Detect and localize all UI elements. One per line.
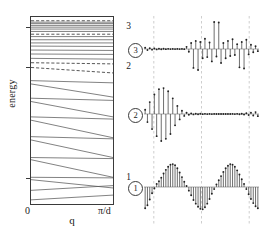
wavefunction-panel: 3 2 1 bbox=[128, 0, 262, 237]
band-structure-panel: energy 3 2 1 0 π/d q bbox=[0, 0, 131, 237]
figure-root: energy 3 2 1 0 π/d q 3 2 1 bbox=[0, 0, 262, 237]
x-axis-label: q bbox=[30, 214, 114, 226]
wavefunction-stems bbox=[128, 0, 262, 237]
state-label-2: 2 bbox=[128, 108, 143, 123]
state-label-3: 3 bbox=[128, 43, 143, 58]
y-axis-label: energy bbox=[6, 66, 17, 122]
state-label-1: 1 bbox=[128, 181, 143, 196]
band-plot-frame bbox=[30, 16, 114, 205]
band-curves bbox=[31, 17, 113, 204]
